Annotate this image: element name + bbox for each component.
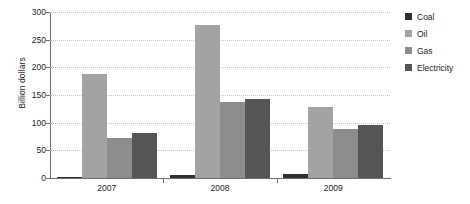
x-axis-group-label: 2008 [211,183,230,193]
bar [245,99,270,178]
bar [82,74,107,178]
legend-item-label: Coal [417,12,434,22]
bar [195,25,220,178]
gridline [50,40,390,41]
plot-area [50,12,390,178]
y-tick-label: 100 [16,118,46,128]
y-tick-label: 200 [16,62,46,72]
y-tick-label: 300 [16,7,46,17]
x-axis-group-label: 2007 [97,183,116,193]
bar [358,125,383,178]
legend-swatch-icon [405,47,412,54]
gridline [50,12,390,13]
legend-item-label: Electricity [417,63,453,73]
y-tick-label: 0 [16,173,46,183]
legend: CoalOilGasElectricity [405,8,453,76]
x-tick-mark [277,178,278,183]
bar-chart: Billion dollars 050100150200250300 20072… [0,0,470,204]
legend-item-label: Gas [417,46,433,56]
legend-item[interactable]: Coal [405,8,453,25]
gridline [50,67,390,68]
y-tick-label: 150 [16,90,46,100]
bar [308,107,333,178]
x-tick-mark [163,178,164,183]
bar [333,129,358,178]
y-tick-label: 50 [16,145,46,155]
legend-item[interactable]: Gas [405,42,453,59]
x-axis-group-label: 2009 [324,183,343,193]
bar [220,102,245,178]
x-axis-line [50,178,391,179]
legend-item[interactable]: Electricity [405,59,453,76]
legend-swatch-icon [405,13,412,20]
bar [107,138,132,178]
y-tick-label: 250 [16,35,46,45]
legend-swatch-icon [405,64,412,71]
legend-swatch-icon [405,30,412,37]
bottom-band [0,196,470,204]
bar [132,133,157,178]
legend-item[interactable]: Oil [405,25,453,42]
legend-item-label: Oil [417,29,427,39]
